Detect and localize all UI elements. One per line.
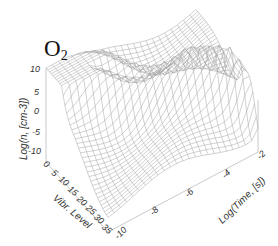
chart-title: O2 xyxy=(44,36,68,64)
z-axis-label: Log(n, [cm-3]) xyxy=(18,98,29,160)
z-tick: 0 xyxy=(34,106,39,116)
z-tick: -10 xyxy=(28,146,41,156)
z-tick: 10 xyxy=(30,64,40,74)
wireframe-mesh xyxy=(46,9,258,217)
z-tick: 5 xyxy=(34,87,39,97)
z-tick: -5 xyxy=(32,127,40,137)
